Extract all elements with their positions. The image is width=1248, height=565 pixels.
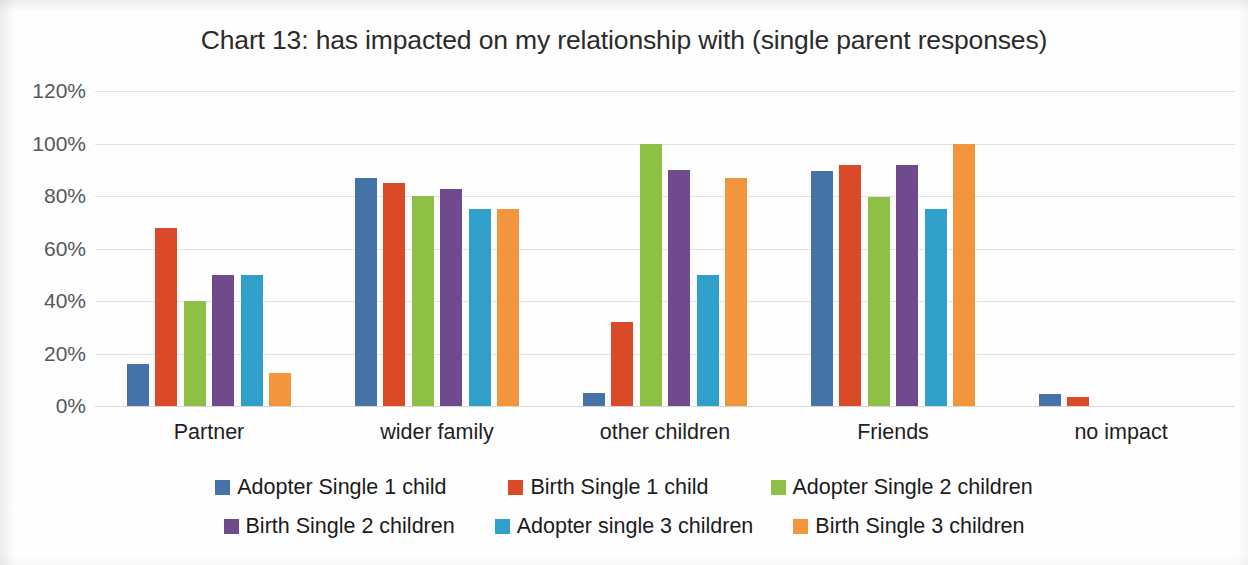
legend-label: Birth Single 1 child: [530, 475, 708, 500]
y-axis: 120%100%80%60%40%20%0%: [0, 91, 86, 406]
legend-entry[interactable]: Birth Single 1 child: [508, 475, 708, 500]
bar-slot: [212, 91, 234, 406]
bar-slot: [868, 91, 890, 406]
bar[interactable]: [868, 197, 890, 406]
legend-row: Birth Single 2 childrenAdopter single 3 …: [0, 507, 1248, 546]
x-axis: Partnerwider familyother childrenFriends…: [95, 420, 1235, 452]
gridline: [95, 406, 1235, 407]
bar-slot: [1096, 91, 1118, 406]
bar-slot: [583, 91, 605, 406]
bar[interactable]: [212, 275, 234, 406]
bar-slot: [1153, 91, 1175, 406]
bar-slot: [953, 91, 975, 406]
legend-swatch-icon: [771, 480, 786, 495]
legend-label: Birth Single 3 children: [815, 514, 1024, 539]
bar[interactable]: [1039, 394, 1061, 406]
legend-row: Adopter Single 1 childBirth Single 1 chi…: [0, 468, 1248, 507]
y-axis-tick-label: 100%: [8, 132, 86, 156]
bar[interactable]: [412, 196, 434, 406]
bar[interactable]: [725, 178, 747, 406]
bar[interactable]: [640, 144, 662, 407]
bar[interactable]: [611, 322, 633, 406]
bar-slot: [412, 91, 434, 406]
legend-entry[interactable]: Adopter Single 2 children: [771, 475, 1033, 500]
x-axis-tick-label: other children: [600, 420, 730, 445]
chart-container: Chart 13: has impacted on my relationshi…: [0, 0, 1248, 565]
bar-slot: [611, 91, 633, 406]
bar-slot: [355, 91, 377, 406]
chart-legend: Adopter Single 1 childBirth Single 1 chi…: [0, 468, 1248, 546]
bar[interactable]: [811, 171, 833, 406]
bar[interactable]: [925, 209, 947, 406]
y-axis-tick-label: 60%: [8, 237, 86, 261]
bar-slot: [269, 91, 291, 406]
bar-slot: [839, 91, 861, 406]
bar-slot: [1039, 91, 1061, 406]
bar[interactable]: [127, 364, 149, 406]
bar[interactable]: [1067, 397, 1089, 406]
bar[interactable]: [440, 189, 462, 406]
legend-entry[interactable]: Birth Single 3 children: [793, 514, 1024, 539]
y-axis-tick-label: 120%: [8, 79, 86, 103]
y-axis-tick-label: 40%: [8, 289, 86, 313]
bar-slot: [1124, 91, 1146, 406]
bar[interactable]: [697, 275, 719, 406]
bar[interactable]: [355, 178, 377, 406]
legend-label: Birth Single 2 children: [246, 514, 455, 539]
bar-slot: [440, 91, 462, 406]
bar[interactable]: [583, 393, 605, 406]
legend-label: Adopter single 3 children: [517, 514, 754, 539]
bar[interactable]: [839, 165, 861, 407]
bar-slot: [640, 91, 662, 406]
x-axis-tick-label: Friends: [857, 420, 929, 445]
legend-swatch-icon: [508, 480, 523, 495]
bar-slot: [127, 91, 149, 406]
bar-group: [95, 91, 323, 406]
bar-slot: [811, 91, 833, 406]
bar[interactable]: [383, 183, 405, 406]
bar-group: [551, 91, 779, 406]
bar-slot: [896, 91, 918, 406]
bar-slot: [497, 91, 519, 406]
bar[interactable]: [497, 209, 519, 406]
bar-slot: [725, 91, 747, 406]
bar[interactable]: [269, 373, 291, 406]
bar[interactable]: [241, 275, 263, 406]
bar-slot: [241, 91, 263, 406]
bar-slot: [184, 91, 206, 406]
bar-slot: [383, 91, 405, 406]
bar-slot: [925, 91, 947, 406]
plot-area: [95, 91, 1235, 406]
bar[interactable]: [469, 209, 491, 406]
y-axis-tick-label: 20%: [8, 342, 86, 366]
y-axis-tick-label: 80%: [8, 184, 86, 208]
bar[interactable]: [668, 170, 690, 406]
y-axis-tick-label: 0%: [8, 394, 86, 418]
legend-label: Adopter Single 2 children: [793, 475, 1033, 500]
legend-entry[interactable]: Adopter Single 1 child: [215, 475, 446, 500]
bar-slot: [1067, 91, 1089, 406]
legend-entry[interactable]: Adopter single 3 children: [495, 514, 754, 539]
legend-swatch-icon: [793, 519, 808, 534]
bar[interactable]: [184, 301, 206, 406]
bar[interactable]: [953, 144, 975, 407]
legend-swatch-icon: [224, 519, 239, 534]
x-axis-tick-label: wider family: [380, 420, 494, 445]
bar[interactable]: [155, 228, 177, 407]
legend-entry[interactable]: Birth Single 2 children: [224, 514, 455, 539]
chart-title: Chart 13: has impacted on my relationshi…: [0, 25, 1248, 56]
legend-swatch-icon: [495, 519, 510, 534]
bar-group: [323, 91, 551, 406]
legend-label: Adopter Single 1 child: [237, 475, 446, 500]
bar-group: [1007, 91, 1235, 406]
bar[interactable]: [896, 165, 918, 407]
x-axis-tick-label: Partner: [174, 420, 245, 445]
bar-slot: [469, 91, 491, 406]
bar-slot: [1181, 91, 1203, 406]
bar-slot: [697, 91, 719, 406]
x-axis-tick-label: no impact: [1074, 420, 1167, 445]
bar-group: [779, 91, 1007, 406]
bar-slot: [668, 91, 690, 406]
bar-slot: [155, 91, 177, 406]
legend-swatch-icon: [215, 480, 230, 495]
